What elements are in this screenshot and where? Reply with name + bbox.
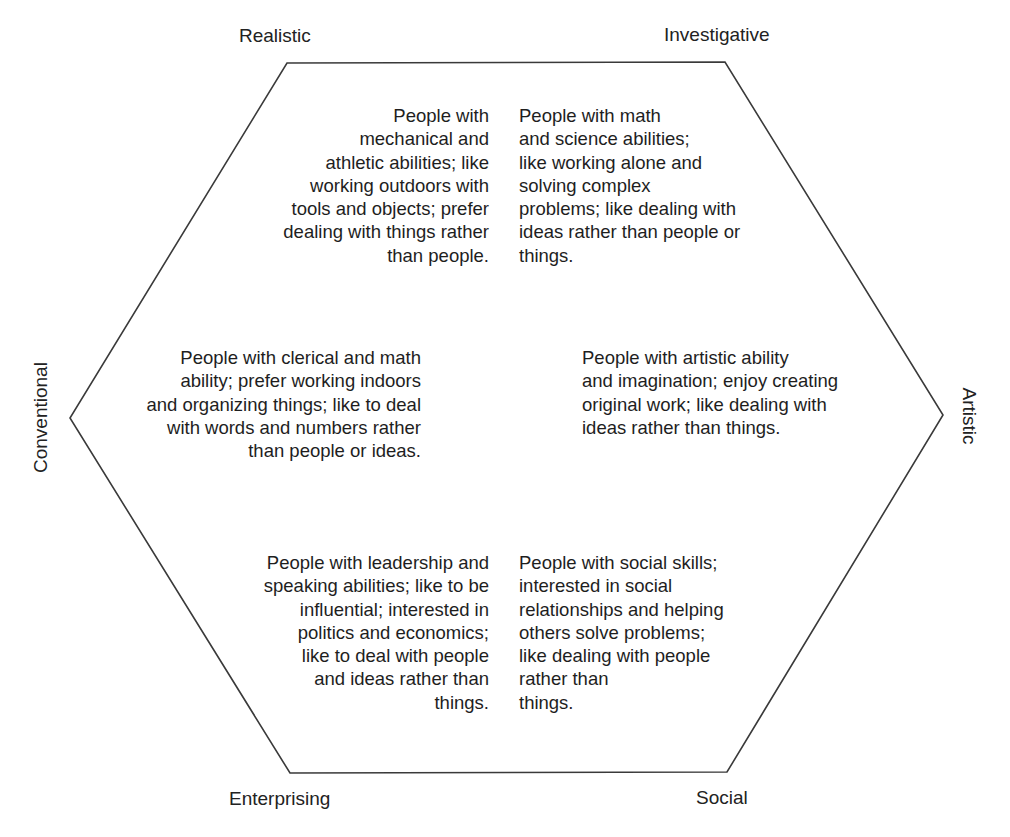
- description-line: athletic abilities; like: [283, 151, 489, 174]
- description-line: problems; like dealing with: [519, 197, 740, 220]
- description-line: and science abilities;: [519, 127, 740, 150]
- description-line: and organizing things; like to deal: [146, 393, 421, 416]
- description-line: rather than: [519, 667, 724, 690]
- label-realistic: Realistic: [239, 25, 311, 47]
- description-line: working outdoors with: [283, 174, 489, 197]
- description-line: original work; like dealing with: [582, 393, 838, 416]
- description-line: like working alone and: [519, 151, 740, 174]
- description-line: things.: [519, 691, 724, 714]
- description-line: politics and economics;: [264, 621, 489, 644]
- description-line: solving complex: [519, 174, 740, 197]
- label-conventional: Conventional: [30, 363, 52, 473]
- description-enterprising: People with leadership and speaking abil…: [264, 551, 489, 714]
- description-line: with words and numbers rather: [146, 416, 421, 439]
- description-line: like to deal with people: [264, 644, 489, 667]
- description-line: than people.: [283, 244, 489, 267]
- description-social: People with social skills; interested in…: [519, 551, 724, 714]
- description-line: ideas rather than things.: [582, 416, 838, 439]
- description-line: things.: [519, 244, 740, 267]
- description-line: People with clerical and math: [146, 346, 421, 369]
- description-line: People with leadership and: [264, 551, 489, 574]
- description-line: interested in social: [519, 574, 724, 597]
- description-line: mechanical and: [283, 127, 489, 150]
- description-line: dealing with things rather: [283, 220, 489, 243]
- label-investigative: Investigative: [664, 24, 770, 46]
- description-line: than people or ideas.: [146, 439, 421, 462]
- description-line: People with: [283, 104, 489, 127]
- description-line: like dealing with people: [519, 644, 724, 667]
- description-line: others solve problems;: [519, 621, 724, 644]
- description-line: tools and objects; prefer: [283, 197, 489, 220]
- description-conventional: People with clerical and math ability; p…: [146, 346, 421, 462]
- description-line: relationships and helping: [519, 598, 724, 621]
- description-realistic: People with mechanical and athletic abil…: [283, 104, 489, 267]
- description-line: ideas rather than people or: [519, 220, 740, 243]
- label-social: Social: [696, 787, 748, 809]
- label-artistic: Artistic: [958, 380, 980, 452]
- description-line: People with social skills;: [519, 551, 724, 574]
- description-investigative: People with math and science abilities; …: [519, 104, 740, 267]
- description-line: People with artistic ability: [582, 346, 838, 369]
- description-line: and ideas rather than: [264, 667, 489, 690]
- description-line: People with math: [519, 104, 740, 127]
- label-enterprising: Enterprising: [229, 788, 330, 810]
- description-artistic: People with artistic ability and imagina…: [582, 346, 838, 439]
- description-line: ability; prefer working indoors: [146, 369, 421, 392]
- description-line: influential; interested in: [264, 598, 489, 621]
- description-line: things.: [264, 691, 489, 714]
- description-line: and imagination; enjoy creating: [582, 369, 838, 392]
- description-line: speaking abilities; like to be: [264, 574, 489, 597]
